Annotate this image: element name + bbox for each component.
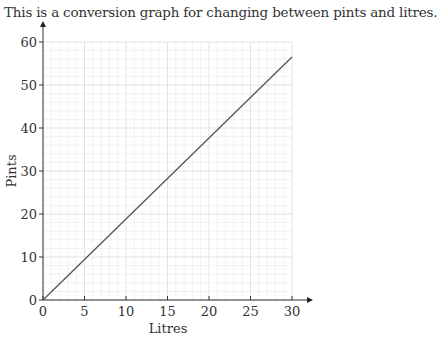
x-tick-label: 25 bbox=[242, 304, 259, 319]
x-tick-label: 15 bbox=[159, 304, 176, 319]
y-tick-label: 40 bbox=[20, 121, 37, 136]
y-tick-label: 20 bbox=[20, 207, 37, 222]
y-axis-label: Pints bbox=[4, 154, 19, 187]
grid bbox=[43, 42, 292, 300]
x-tick-label: 5 bbox=[80, 304, 88, 319]
y-tick-label: 50 bbox=[20, 78, 37, 93]
y-tick-label: 0 bbox=[29, 293, 37, 308]
y-tick-label: 30 bbox=[20, 164, 37, 179]
x-tick-label: 20 bbox=[201, 304, 218, 319]
x-tick-label: 10 bbox=[118, 304, 135, 319]
x-tick-label: 30 bbox=[284, 304, 301, 319]
y-tick-label: 10 bbox=[20, 250, 37, 265]
y-tick-label: 60 bbox=[20, 35, 37, 50]
x-tick-label: 0 bbox=[39, 304, 47, 319]
x-axis-label: Litres bbox=[149, 321, 188, 336]
